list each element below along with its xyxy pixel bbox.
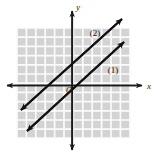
line-1-label: (1) — [108, 65, 119, 75]
coordinate-plane-svg: (2) (1) O x y — [0, 0, 155, 154]
origin-label: O — [66, 86, 72, 95]
line-2-label: (2) — [90, 28, 101, 38]
graph-figure: (2) (1) O x y — [0, 0, 155, 154]
y-axis-label: y — [75, 2, 80, 12]
grid-panel — [17, 28, 130, 138]
x-axis-label: x — [146, 81, 151, 91]
